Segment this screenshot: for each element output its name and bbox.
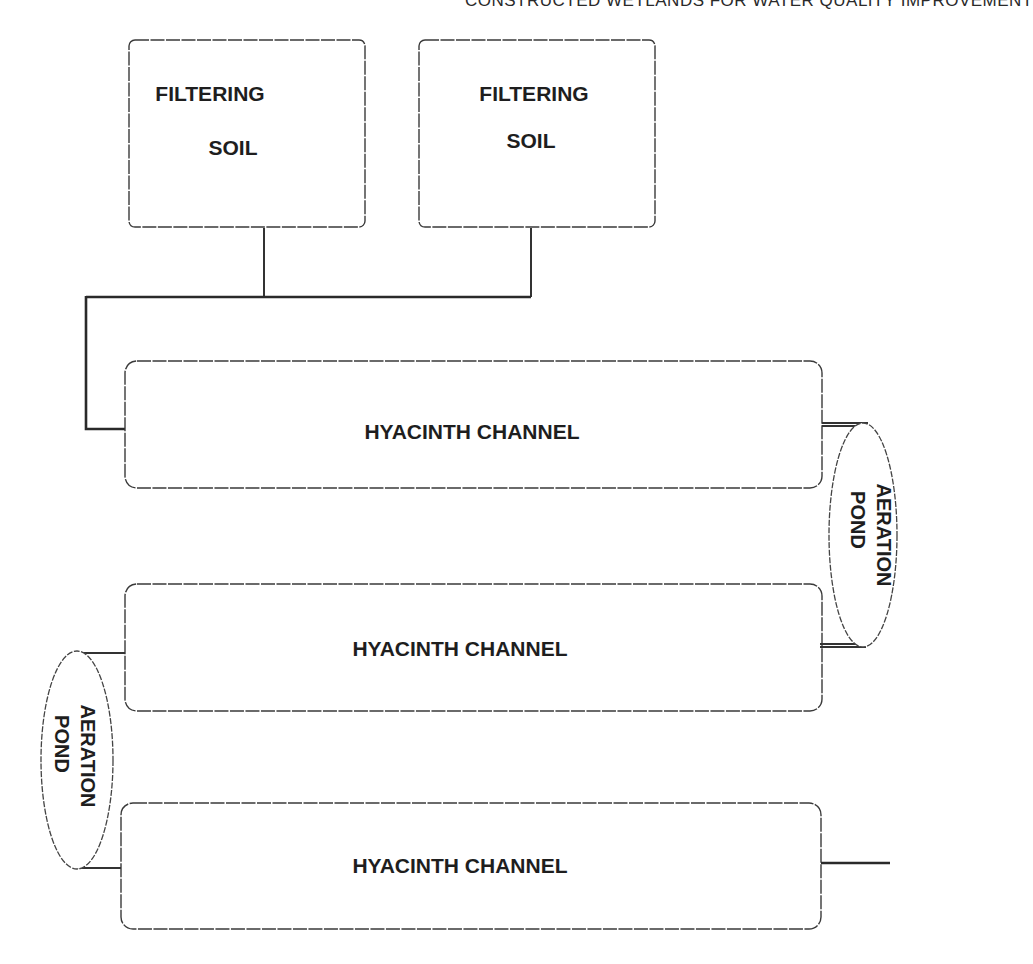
filter-2-line1: FILTERING	[479, 82, 588, 105]
channel-2-label: HYACINTH CHANNEL	[352, 637, 567, 660]
channel-1-label: HYACINTH CHANNEL	[364, 420, 579, 443]
aeration-pond-left: AERATION POND	[41, 651, 113, 869]
hyacinth-channel-1: HYACINTH CHANNEL	[125, 361, 822, 488]
channel-3-label: HYACINTH CHANNEL	[352, 854, 567, 877]
filtering-soil-box-2: FILTERING SOIL	[419, 40, 655, 227]
filter-1-line2: SOIL	[208, 136, 257, 159]
aeration-pond-right: AERATION POND	[829, 423, 897, 647]
filter-2-line2: SOIL	[506, 129, 555, 152]
pond-right-line2: POND	[847, 491, 869, 549]
hyacinth-channel-3: HYACINTH CHANNEL	[121, 803, 821, 929]
filtering-soil-box-1: FILTERING SOIL	[129, 40, 365, 227]
pond-left-line1: AERATION	[77, 705, 99, 808]
pond-left-line2: POND	[51, 715, 73, 773]
filter-1-line1: FILTERING	[155, 82, 264, 105]
pond-right-line1: AERATION	[873, 484, 895, 587]
hyacinth-channel-2: HYACINTH CHANNEL	[125, 584, 822, 711]
